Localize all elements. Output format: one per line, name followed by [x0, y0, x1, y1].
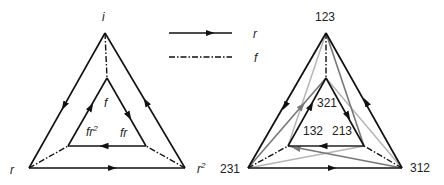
legend-label-r: r [253, 28, 257, 40]
diagram-canvas [0, 0, 444, 185]
legend [169, 33, 232, 57]
vertex-label-213: 213 [332, 125, 352, 137]
vertex-label-321: 321 [317, 97, 337, 109]
vertex-label-r2-exp: 2 [201, 161, 205, 170]
vertex-label-231: 231 [220, 163, 240, 175]
vertex-label-312: 312 [410, 162, 430, 174]
vertex-label-fr2: fr2 [86, 125, 98, 138]
vertex-label-f: f [104, 97, 107, 109]
vertex-label-123: 123 [315, 11, 335, 23]
vertex-label-fr2-exp: 2 [93, 124, 97, 133]
vertex-label-r2: r2 [197, 162, 205, 175]
vertex-label-fr: fr [120, 127, 127, 139]
vertex-label-132: 132 [303, 125, 323, 137]
vertex-label-i: i [102, 11, 105, 23]
vertex-label-r: r [10, 164, 14, 176]
legend-label-f: f [254, 52, 257, 64]
